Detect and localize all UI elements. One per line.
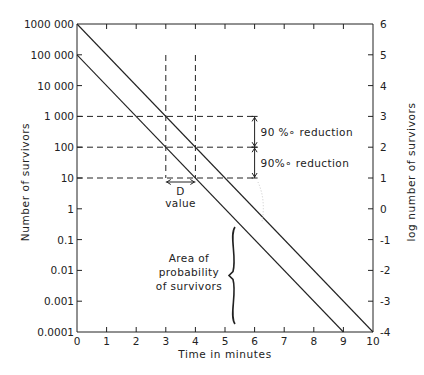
y-right-tick-label: 6 — [380, 18, 387, 30]
y-left-tick-label: 1 — [67, 203, 74, 215]
y-right-tick-label: -2 — [380, 264, 390, 276]
y-right-tick-label: 4 — [380, 80, 387, 92]
x-tick-label: 10 — [366, 335, 379, 347]
curly-brace — [229, 227, 235, 324]
d-value-label: value — [165, 197, 196, 209]
faint-dotted-arc — [258, 182, 263, 222]
x-tick-label: 8 — [310, 335, 317, 347]
y-left-axis-title: Number of survivors — [19, 123, 31, 241]
y-right-tick-label: 3 — [380, 110, 387, 122]
y-left-tick-label: 0.0001 — [37, 326, 74, 338]
x-tick-label: 3 — [162, 335, 169, 347]
y-left-tick-label: 100 000 — [31, 49, 74, 61]
x-axis-title: Time in minutes — [177, 348, 271, 360]
y-right-tick-label: -1 — [380, 234, 390, 246]
y-left-tick-label: 100 — [54, 141, 74, 153]
d-value-diagram: 0123456789101000 000100 00010 0001 00010… — [0, 0, 424, 375]
area-label: Area of — [169, 252, 209, 264]
y-left-tick-label: 0.1 — [57, 234, 74, 246]
y-left-tick-label: 1000 000 — [24, 18, 74, 30]
y-right-tick-label: 0 — [380, 203, 387, 215]
x-tick-label: 0 — [74, 335, 81, 347]
y-right-axis-title: log number of survivors — [405, 103, 417, 242]
plot-area: 0123456789101000 000100 00010 0001 00010… — [19, 18, 417, 360]
y-right-tick-label: 2 — [380, 141, 387, 153]
y-left-tick-label: 0.01 — [51, 264, 74, 276]
d-value-label: D — [176, 185, 185, 197]
x-tick-label: 1 — [103, 335, 110, 347]
y-right-tick-label: -3 — [380, 295, 390, 307]
area-label: probability — [159, 266, 219, 278]
x-tick-label: 7 — [281, 335, 288, 347]
y-left-tick-label: 10 000 — [37, 80, 74, 92]
reduction-label-1: 90 %∘ reduction — [261, 126, 353, 138]
x-tick-label: 2 — [133, 335, 140, 347]
x-tick-label: 6 — [251, 335, 258, 347]
y-right-tick-label: 1 — [380, 172, 387, 184]
y-left-tick-label: 10 — [61, 172, 74, 184]
x-tick-label: 9 — [340, 335, 347, 347]
y-left-tick-label: 0.001 — [44, 295, 74, 307]
area-label: of survivors — [156, 280, 222, 292]
reduction-label-2: 90%∘ reduction — [261, 157, 350, 169]
y-left-tick-label: 1 000 — [44, 110, 74, 122]
x-tick-label: 5 — [222, 335, 229, 347]
x-tick-label: 4 — [192, 335, 199, 347]
y-right-tick-label: 5 — [380, 49, 387, 61]
y-right-tick-label: -4 — [380, 326, 391, 338]
